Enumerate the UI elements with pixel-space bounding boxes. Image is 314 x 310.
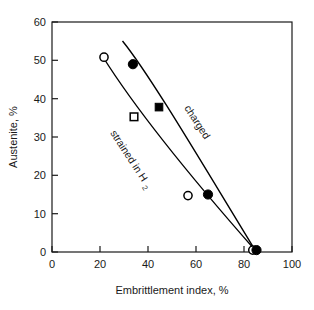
x-tick-label-20: 20	[94, 258, 106, 270]
chart-figure: 0 10 20 30 40 50 60 0 20 40 60 80 100 Em…	[0, 0, 314, 310]
data-point-open-circle-2	[184, 192, 192, 200]
data-point-filled-circle-1	[128, 60, 137, 69]
data-point-filled-circle-3	[252, 246, 261, 255]
data-point-open-square-1	[130, 113, 138, 121]
y-tick-label-60: 60	[34, 16, 46, 28]
chart-background	[0, 0, 314, 310]
y-tick-label-20: 20	[34, 169, 46, 181]
data-point-filled-circle-2	[203, 190, 212, 199]
x-axis-title: Embrittlement index, %	[115, 284, 228, 296]
x-tick-label-80: 80	[238, 258, 250, 270]
data-point-open-circle-1	[100, 53, 108, 61]
y-tick-label-10: 10	[34, 208, 46, 220]
x-tick-label-0: 0	[49, 258, 55, 270]
y-axis-title: Austenite, %	[7, 106, 19, 168]
x-tick-label-40: 40	[142, 258, 154, 270]
scatter-chart-svg: 0 10 20 30 40 50 60 0 20 40 60 80 100 Em…	[0, 0, 314, 310]
y-tick-label-50: 50	[34, 54, 46, 66]
data-point-filled-square-1	[155, 103, 163, 111]
x-tick-label-60: 60	[190, 258, 202, 270]
y-tick-label-0: 0	[40, 246, 46, 258]
y-tick-label-40: 40	[34, 93, 46, 105]
x-tick-label-100: 100	[283, 258, 301, 270]
y-tick-label-30: 30	[34, 131, 46, 143]
